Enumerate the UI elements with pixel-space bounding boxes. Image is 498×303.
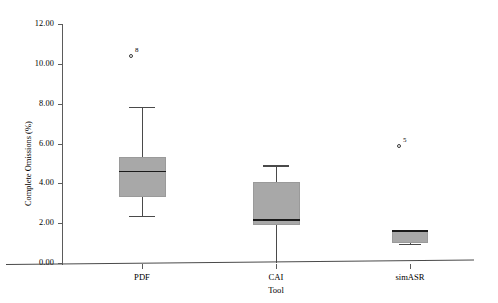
box-plot-chart: 0.002.004.006.008.0010.0012.00Complete O…	[0, 0, 498, 303]
x-axis-tick	[410, 264, 411, 269]
y-axis-tick	[58, 223, 63, 224]
x-axis-tick-label: PDF	[102, 272, 182, 282]
y-axis-tick-label: 2.00	[4, 218, 54, 227]
outlier-label: 5	[403, 136, 407, 144]
whisker-lower-cap	[399, 244, 421, 245]
whisker-upper-cap	[129, 107, 155, 108]
outlier-point[interactable]	[129, 54, 133, 58]
plot-area: 0.002.004.006.008.0010.0012.00Complete O…	[0, 0, 498, 303]
y-axis-tick	[58, 263, 63, 264]
y-axis-tick-label: 12.00	[4, 19, 54, 28]
x-axis-title: Tool	[236, 285, 316, 295]
outlier-label: 8	[135, 46, 139, 54]
y-axis-title: Complete Omissions (%)	[24, 121, 33, 206]
median-line-simasr	[392, 230, 428, 232]
median-line-pdf	[119, 171, 166, 173]
whisker-upper-cap	[263, 165, 289, 166]
whisker-lower	[142, 197, 143, 216]
y-axis-tick-label: 10.00	[4, 59, 54, 68]
box-simasr[interactable]	[392, 230, 428, 244]
x-axis-line	[6, 260, 474, 266]
whisker-upper	[142, 107, 143, 157]
x-axis-tick-label: CAI	[236, 272, 316, 282]
whisker-lower	[276, 225, 277, 263]
whisker-lower-cap	[129, 216, 155, 217]
outlier-point[interactable]	[397, 144, 401, 148]
y-axis-tick	[58, 64, 63, 65]
x-axis-tick	[142, 264, 143, 269]
median-line-cai	[253, 219, 300, 221]
whisker-upper	[276, 165, 277, 182]
y-axis-tick-label: 0.00	[4, 258, 54, 267]
box-pdf[interactable]	[119, 157, 166, 197]
y-axis-tick-label: 8.00	[4, 99, 54, 108]
x-axis-tick	[276, 264, 277, 269]
y-axis-tick	[58, 104, 63, 105]
y-axis-tick	[58, 144, 63, 145]
x-axis-tick-label: simASR	[370, 272, 450, 282]
y-axis-tick	[58, 24, 63, 25]
y-axis-tick	[58, 183, 63, 184]
